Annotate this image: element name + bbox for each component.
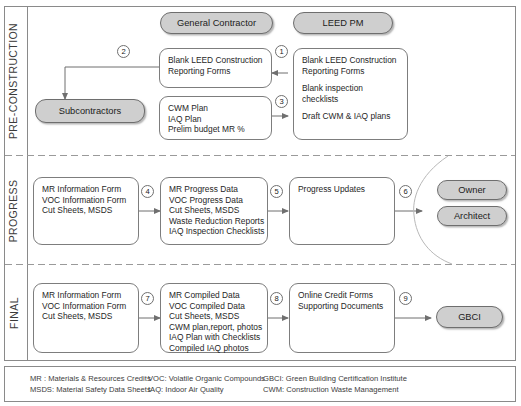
- legend-entry: MR : Materials & Resources Credits: [30, 373, 151, 384]
- step-number-1[interactable]: 1: [275, 45, 288, 58]
- actor-label: Architect: [454, 211, 490, 221]
- box-line: CWM plan,report, photos: [169, 322, 260, 333]
- phase-label-text: PROGRESS: [8, 179, 20, 242]
- actor-label: GBCI: [458, 312, 481, 322]
- actor-pill-leed-pm[interactable]: LEED PM: [293, 12, 393, 34]
- box-line: IAQ Plan with Checklists: [169, 332, 260, 343]
- box-line: Prelim budget MR %: [168, 124, 264, 135]
- box-line: Cut Sheets, MSDS: [169, 205, 260, 216]
- box-line: VOC Information Form: [42, 301, 131, 312]
- legend-entry: CWM: Construction Waste Management: [263, 384, 407, 395]
- box-line: Draft CWM & IAQ plans: [302, 111, 400, 122]
- legend-column-1: MR : Materials & Resources Credits MSDS:…: [30, 373, 151, 395]
- phase-label-final: FINAL: [0, 265, 27, 361]
- box-line: MR Compiled Data: [169, 290, 260, 301]
- step-number-8[interactable]: 8: [270, 292, 283, 305]
- diagram-canvas: PRE-CONSTRUCTION PROGRESS FINAL General …: [0, 0, 521, 406]
- actor-label: Owner: [458, 185, 485, 195]
- actor-pill-subcontractors[interactable]: Subcontractors: [35, 99, 145, 123]
- actor-label: General Contractor: [177, 18, 256, 28]
- legend-entry: GBCI: Green Building Certification Insti…: [263, 373, 407, 384]
- box-sub-final-inputs[interactable]: MR Information Form VOC Information Form…: [33, 283, 139, 353]
- box-line: CWM Plan: [168, 103, 264, 114]
- box-line: Cut Sheets, MSDS: [42, 205, 131, 216]
- box-line: Online Credit Forms: [298, 290, 387, 301]
- box-line: IAQ Inspection Checklists: [169, 226, 260, 237]
- box-line: IAQ Plan: [168, 114, 264, 125]
- box-line: MR Information Form: [42, 290, 131, 301]
- actor-label: LEED PM: [323, 18, 364, 28]
- step-number-6[interactable]: 6: [399, 185, 412, 198]
- step-number-7[interactable]: 7: [141, 292, 154, 305]
- box-line: VOC Compiled Data: [169, 301, 260, 312]
- phase-label-progress: PROGRESS: [0, 156, 27, 265]
- phase-label-pre-construction: PRE-CONSTRUCTION: [0, 6, 27, 156]
- box-sub-progress-inputs[interactable]: MR Information Form VOC Information Form…: [33, 177, 139, 245]
- legend-entry: MSDS: Material Safety Data Sheets: [30, 384, 151, 395]
- box-line: Blank LEED Construction: [302, 55, 400, 66]
- actor-label: Subcontractors: [59, 106, 122, 116]
- box-line: checklists: [302, 94, 400, 105]
- box-pm-credit-submission[interactable]: Online Credit Forms Supporting Documents: [289, 283, 395, 353]
- box-line: Supporting Documents: [298, 301, 387, 312]
- box-line: Cut Sheets, MSDS: [42, 311, 131, 322]
- box-pm-preconstruction-deliverables[interactable]: Blank LEED Construction Reporting Forms …: [293, 48, 408, 140]
- box-gc-compiled-data[interactable]: MR Compiled Data VOC Compiled Data Cut S…: [160, 283, 268, 353]
- box-spacer: [302, 104, 400, 111]
- box-gc-plans[interactable]: CWM Plan IAQ Plan Prelim budget MR %: [159, 96, 272, 140]
- legend-entry: VOC: Volatile Organic Compounds: [148, 373, 265, 384]
- box-line: Blank inspection: [302, 83, 400, 94]
- box-line: Progress Updates: [298, 184, 387, 195]
- legend-entry: IAQ: Indoor Air Quality: [148, 384, 265, 395]
- step-number-9[interactable]: 9: [399, 292, 412, 305]
- phase-label-text: FINAL: [8, 297, 20, 329]
- box-gc-progress-data[interactable]: MR Progress Data VOC Progress Data Cut S…: [160, 177, 268, 245]
- box-line: Reporting Forms: [302, 66, 400, 77]
- box-line: VOC Progress Data: [169, 195, 260, 206]
- phase-lane-rail: [27, 6, 28, 361]
- actor-pill-general-contractor[interactable]: General Contractor: [160, 12, 273, 34]
- step-number-2[interactable]: 2: [117, 45, 130, 58]
- box-line: Cut Sheets, MSDS: [169, 311, 260, 322]
- box-line: Waste Reduction Reports: [169, 216, 260, 227]
- legend-column-3: GBCI: Green Building Certification Insti…: [263, 373, 407, 395]
- box-line: Compiled IAQ photos: [169, 343, 260, 354]
- phase-label-text: PRE-CONSTRUCTION: [8, 23, 20, 139]
- box-pm-progress-updates[interactable]: Progress Updates: [289, 177, 395, 245]
- step-number-3[interactable]: 3: [275, 95, 288, 108]
- box-line: Reporting Forms: [168, 66, 264, 77]
- actor-pill-architect[interactable]: Architect: [437, 206, 507, 226]
- box-spacer: [302, 76, 400, 83]
- box-line: MR Progress Data: [169, 184, 260, 195]
- box-line: Blank LEED Construction: [168, 55, 264, 66]
- actor-pill-owner[interactable]: Owner: [437, 180, 507, 200]
- box-line: VOC Information Form: [42, 195, 131, 206]
- step-number-4[interactable]: 4: [141, 185, 154, 198]
- actor-pill-gbci[interactable]: GBCI: [436, 306, 503, 328]
- legend-column-2: VOC: Volatile Organic Compounds IAQ: Ind…: [148, 373, 265, 395]
- box-line: MR Information Form: [42, 184, 131, 195]
- box-gc-blank-forms[interactable]: Blank LEED Construction Reporting Forms: [159, 48, 272, 88]
- step-number-5[interactable]: 5: [270, 185, 283, 198]
